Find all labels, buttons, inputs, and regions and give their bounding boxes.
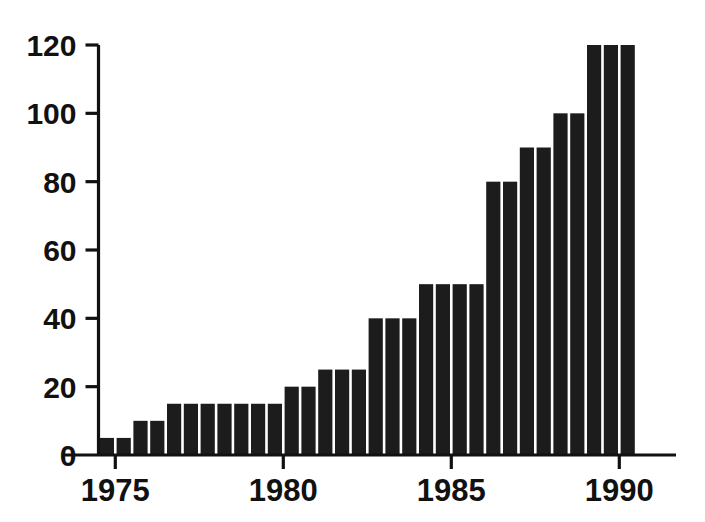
y-axis-tick-label: 100 [26, 97, 76, 130]
bar [486, 182, 500, 455]
bar [335, 370, 349, 455]
bar [167, 404, 181, 455]
chart-canvas: 020406080100120 1975198019851990 [0, 0, 705, 522]
x-axis-tick-label: 1980 [249, 473, 318, 508]
x-axis-tick-label: 1975 [81, 473, 150, 508]
bar [184, 404, 198, 455]
bar [117, 438, 131, 455]
bar [553, 113, 567, 455]
bar [133, 421, 147, 455]
bar [251, 404, 265, 455]
x-axis-tick-mark-group [115, 455, 619, 469]
y-axis-tick-label: 80 [43, 166, 76, 199]
bar [352, 370, 366, 455]
bar [318, 370, 332, 455]
bar [385, 318, 399, 455]
bar [604, 45, 618, 455]
bar [419, 284, 433, 455]
bar [301, 387, 315, 455]
y-axis-tick-mark-group [86, 45, 99, 387]
bar [503, 182, 517, 455]
bar [100, 438, 114, 455]
bar [436, 284, 450, 455]
bar [234, 404, 248, 455]
bar [285, 387, 299, 455]
y-axis-tick-label-group: 020406080100120 [26, 29, 76, 472]
bar-chart-figure: 020406080100120 1975198019851990 [0, 0, 705, 522]
bar-series [100, 45, 635, 455]
y-axis-tick-label: 120 [26, 29, 76, 62]
y-axis-tick-label: 20 [43, 371, 76, 404]
y-axis-tick-label: 40 [43, 302, 76, 335]
bar [217, 404, 231, 455]
x-axis-tick-label-group: 1975198019851990 [81, 473, 654, 508]
y-axis-tick-label: 60 [43, 234, 76, 267]
bar [520, 148, 534, 456]
bar [150, 421, 164, 455]
x-axis-tick-label: 1985 [417, 473, 486, 508]
bar [268, 404, 282, 455]
bar [570, 113, 584, 455]
bar [369, 318, 383, 455]
bar [621, 45, 635, 455]
x-axis-tick-label: 1990 [585, 473, 654, 508]
bar [201, 404, 215, 455]
bar [469, 284, 483, 455]
bar [402, 318, 416, 455]
bar [587, 45, 601, 455]
bar [453, 284, 467, 455]
bar [537, 148, 551, 456]
